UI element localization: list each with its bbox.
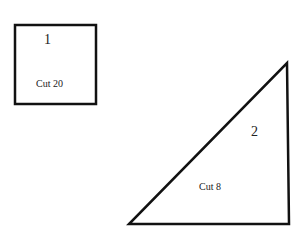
piece-cut-label-2: Cut 8 [199,181,221,192]
piece-cut-label-1: Cut 20 [36,78,63,89]
piece-number-2: 2 [251,124,258,140]
square-piece-1 [15,25,96,104]
piece-number-1: 1 [44,32,51,48]
triangle-piece-2 [129,63,289,224]
